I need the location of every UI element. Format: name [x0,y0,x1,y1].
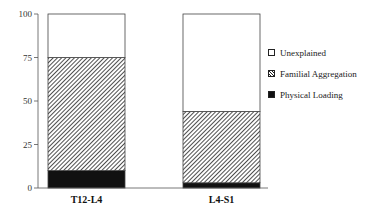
y-axis: 0255075100 [19,9,39,193]
legend-label: Physical Loading [280,90,343,100]
category-label: L4-S1 [209,194,235,205]
black-square-icon [268,91,275,98]
category-label: T12-L4 [71,194,103,205]
bar-segment-physical-loading [183,183,260,188]
legend: Unexplained Familial Aggregation Physica… [268,46,357,109]
legend-item-physical-loading: Physical Loading [268,88,357,101]
legend-item-familial-aggregation: Familial Aggregation [268,67,357,80]
bars [48,14,260,188]
y-tick-label: 75 [23,53,33,63]
y-tick-label: 50 [23,96,33,106]
bar-segment-unexplained [48,14,125,58]
y-tick-label: 25 [23,140,33,150]
legend-label: Unexplained [280,48,326,58]
bar-l4-s1 [183,14,260,188]
legend-item-unexplained: Unexplained [268,46,357,59]
y-tick-label: 100 [19,9,33,19]
white-square-icon [268,49,275,56]
bar-segment-familial-aggregation [48,58,125,171]
y-tick-label: 0 [28,183,33,193]
category-labels: T12-L4L4-S1 [71,194,235,205]
hatched-square-icon [268,70,275,77]
bar-segment-physical-loading [48,171,125,188]
bar-segment-familial-aggregation [183,111,260,182]
legend-label: Familial Aggregation [280,69,357,79]
bar-t12-l4 [48,14,125,188]
bar-segment-unexplained [183,14,260,111]
